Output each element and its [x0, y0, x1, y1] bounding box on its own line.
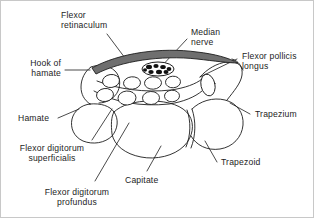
leader-trapezoid — [205, 141, 217, 162]
median-nerve — [142, 62, 174, 76]
leader-flexor-digitorum-superficialis — [92, 109, 112, 140]
label-flexor-digitorum-superficialis: Flexor digitorum superficialis — [3, 143, 101, 164]
tendon-profundus-4 — [164, 90, 179, 102]
tendon-profundus-1 — [96, 87, 115, 102]
leader-trapezium — [230, 103, 250, 114]
capitate-outline — [111, 101, 192, 158]
leader-flexor-retinaculum — [107, 34, 125, 58]
label-capitate: Capitate — [125, 175, 158, 185]
label-hamate: Hamate — [18, 113, 49, 123]
tendon-superficialis-3 — [144, 76, 162, 89]
tendon-superficialis-1 — [102, 73, 121, 88]
capitate-trapezoid-joint-2 — [191, 109, 195, 148]
leader-hamate — [58, 109, 79, 118]
leader-capitate — [147, 146, 161, 171]
label-median-nerve: Median nerve — [191, 27, 220, 48]
label-flexor-pollicis-longus: Flexor pollicis longus — [242, 51, 297, 72]
trapezium-outline-2 — [200, 62, 243, 77]
label-flexor-retinaculum: Flexor retinaculum — [61, 10, 107, 31]
tendon-profundus-3 — [142, 91, 159, 105]
tendon-superficialis-4 — [165, 76, 181, 88]
anatomy-figure: Flexor retinaculum Median nerve Flexor p… — [0, 0, 314, 218]
label-trapezoid: Trapezoid — [221, 157, 260, 167]
hook-of-hamate-outline — [81, 67, 91, 104]
label-flexor-digitorum-profundus: Flexor digitorum profundus — [25, 187, 129, 208]
trapezoid-outline — [191, 99, 243, 149]
label-hook-of-hamate: Hook of hamate — [1, 58, 61, 79]
label-trapezium: Trapezium — [255, 109, 297, 119]
tendon-superficialis-2 — [123, 76, 141, 90]
